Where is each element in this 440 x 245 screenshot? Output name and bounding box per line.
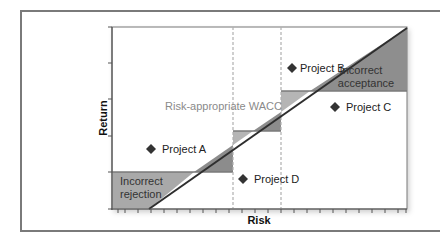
incorrect-acceptance-label-line1: Incorrect (340, 64, 383, 76)
incorrect-rejection-label-line2: rejection (120, 188, 162, 200)
project-b-label: Project B (300, 62, 345, 74)
x-axis-title: Risk (247, 214, 271, 226)
incorrect-acceptance-label-line2: acceptance (338, 77, 394, 89)
y-axis-title: Return (97, 100, 109, 136)
wacc-label: Risk-appropriate WACC (165, 100, 282, 112)
project-a-label: Project A (162, 143, 207, 155)
project-c-label: Project C (346, 101, 391, 113)
x-axis-ticks (118, 209, 406, 213)
project-d-label: Project D (254, 173, 299, 185)
incorrect-rejection-label-line1: Incorrect (120, 175, 163, 187)
